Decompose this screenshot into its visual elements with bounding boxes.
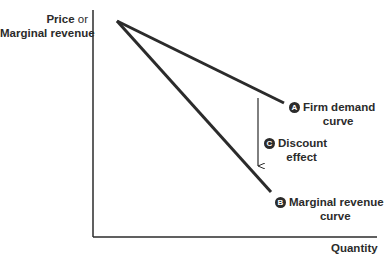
badge-a-icon: A: [289, 102, 300, 113]
y-axis-label: Price or Marginal revenue: [0, 12, 88, 40]
annotation-discount-effect: CDiscount effect: [264, 136, 327, 164]
annotation-firm-demand: AFirm demand curve: [289, 100, 375, 128]
x-axis-label: Quantity: [331, 241, 378, 255]
annotation-marginal-revenue: BMarginal revenue curve: [275, 195, 384, 223]
marginal-revenue-curve: [117, 21, 271, 192]
y-axis-label-line2: Marginal revenue: [0, 27, 95, 39]
y-axis-label-bold: Price: [46, 13, 74, 25]
y-axis-label-or: or: [75, 13, 88, 25]
badge-b-icon: B: [275, 197, 286, 208]
badge-c-icon: C: [264, 138, 275, 149]
firm-demand-curve: [117, 21, 284, 103]
